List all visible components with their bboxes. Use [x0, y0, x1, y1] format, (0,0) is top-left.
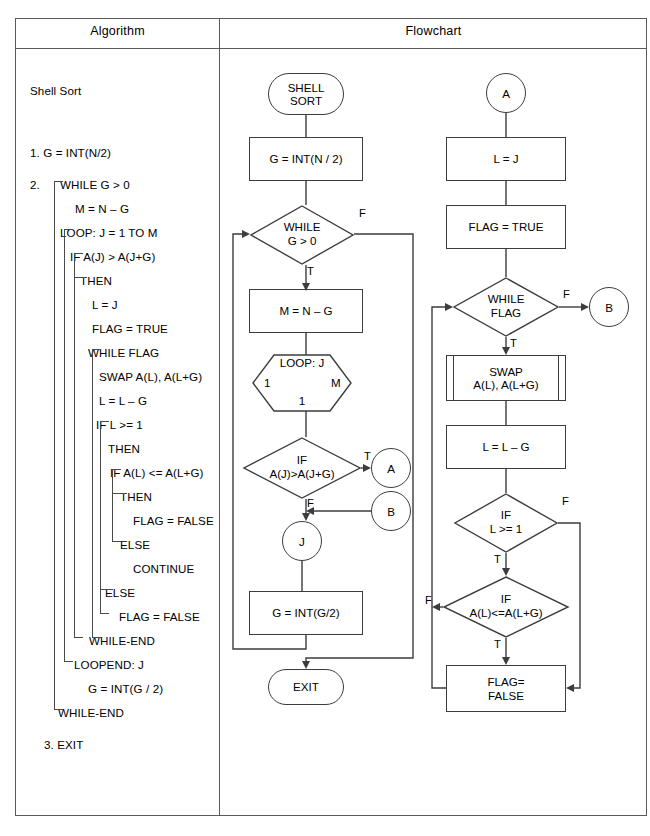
diagram-page: Algorithm Flowchart Shell Sort 1. G = IN… [0, 0, 650, 836]
flow-connector-lines [0, 0, 650, 836]
